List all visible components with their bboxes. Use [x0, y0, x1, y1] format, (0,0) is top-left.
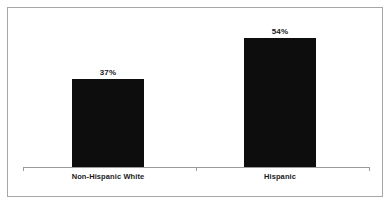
plot-area: 37% 54% Non-Hispanic White Hispanic	[0, 0, 391, 205]
category-label-non-hispanic-white: Non-Hispanic White	[22, 172, 194, 182]
bar-non-hispanic-white	[72, 79, 144, 167]
bar-hispanic	[244, 38, 316, 167]
axis-tick-start	[23, 168, 24, 171]
axis-tick-middle	[196, 168, 197, 171]
bar-chart-figure: 37% 54% Non-Hispanic White Hispanic	[0, 0, 391, 205]
bar-value-label-non-hispanic-white: 37%	[72, 68, 144, 78]
axis-tick-end	[369, 168, 370, 171]
bar-value-label-hispanic: 54%	[244, 27, 316, 37]
category-label-hispanic: Hispanic	[194, 172, 366, 182]
